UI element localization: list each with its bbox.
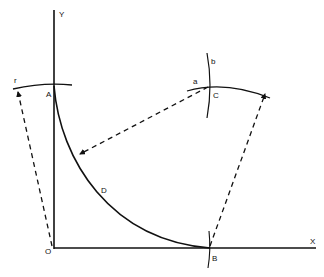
point-d-label: D bbox=[101, 186, 107, 195]
y-axis-label: Y bbox=[59, 10, 65, 19]
curve-d bbox=[54, 86, 210, 248]
arc-a-label: a bbox=[193, 77, 198, 86]
arc-at-b bbox=[208, 231, 210, 268]
arc-a bbox=[187, 87, 270, 98]
arc-b bbox=[207, 53, 210, 118]
arc-b-label: b bbox=[211, 57, 216, 66]
arc-r-label: r bbox=[14, 76, 17, 85]
point-a-label: A bbox=[46, 90, 52, 99]
dashed-b-to-a bbox=[210, 94, 265, 246]
point-b-label: B bbox=[212, 254, 217, 263]
dashed-c-to-d bbox=[80, 87, 208, 154]
point-c-label: C bbox=[213, 91, 219, 100]
x-axis-label: X bbox=[310, 237, 316, 246]
arc-r bbox=[13, 84, 72, 89]
construction-diagram: Y X O A B C D r a b bbox=[0, 0, 324, 277]
dashed-o-to-r bbox=[18, 92, 52, 246]
origin-label: O bbox=[45, 247, 51, 256]
